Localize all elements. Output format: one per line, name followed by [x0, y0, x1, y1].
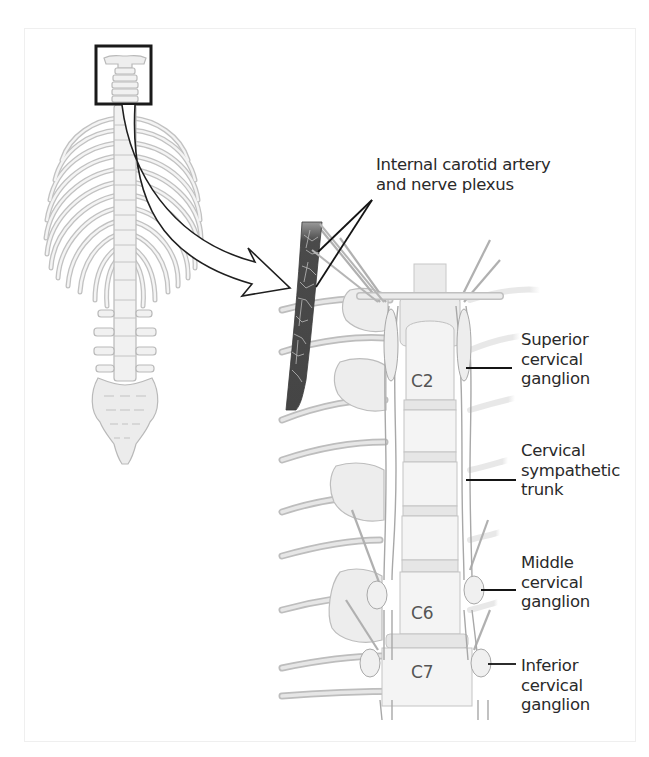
label-line: sympathetic — [521, 461, 620, 481]
label-line: ganglion — [521, 592, 590, 612]
internal-carotid-artery — [286, 222, 322, 410]
label-line: cervical — [521, 573, 590, 593]
label-line: ganglion — [521, 369, 590, 389]
vertebra-label-c6: C6 — [411, 603, 434, 623]
label-superior-cervical-ganglion: Superior cervical ganglion — [521, 330, 590, 389]
label-line: Superior — [521, 330, 590, 350]
vertebra-label-c7: C7 — [411, 662, 434, 682]
label-line: Internal carotid artery — [376, 155, 550, 175]
label-internal-carotid-artery: Internal carotid artery and nerve plexus — [376, 155, 550, 194]
label-line: Cervical — [521, 441, 620, 461]
label-cervical-sympathetic-trunk: Cervical sympathetic trunk — [521, 441, 620, 500]
label-line: trunk — [521, 480, 620, 500]
label-line: ganglion — [521, 695, 590, 715]
magnified-cervical-spine — [282, 222, 540, 720]
label-middle-cervical-ganglion: Middle cervical ganglion — [521, 553, 590, 612]
label-line: and nerve plexus — [376, 175, 550, 195]
label-inferior-cervical-ganglion: Inferior cervical ganglion — [521, 656, 590, 715]
vertebra-label-c2: C2 — [411, 371, 434, 391]
label-line: cervical — [521, 350, 590, 370]
label-line: cervical — [521, 676, 590, 696]
label-line: Middle — [521, 553, 590, 573]
label-line: Inferior — [521, 656, 590, 676]
